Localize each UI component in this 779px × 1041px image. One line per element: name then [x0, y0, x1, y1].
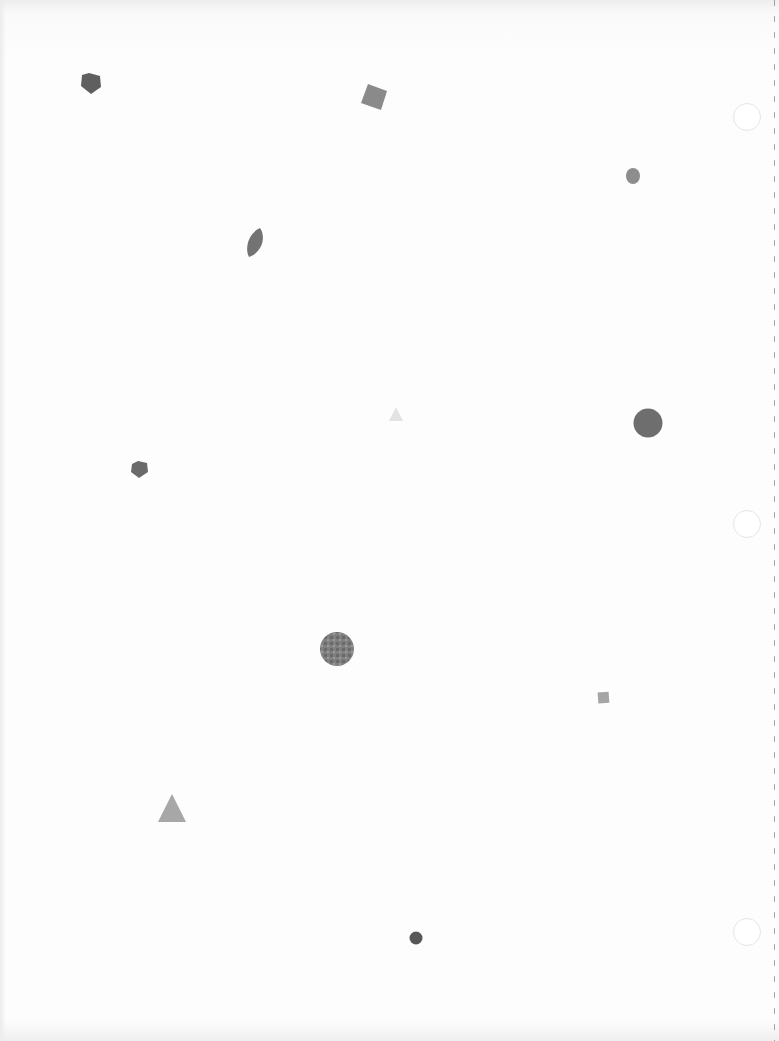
square-shape-small — [596, 690, 612, 706]
punch-hole-bottom — [733, 918, 761, 946]
square-shape — [358, 80, 392, 114]
triangle-shape — [156, 792, 188, 824]
perforation-edge-line — [774, 0, 775, 1041]
punch-hole-middle — [733, 510, 761, 538]
circle-shape-small — [624, 167, 642, 185]
punch-hole-top — [733, 103, 761, 131]
triangle-shape-faint — [387, 405, 405, 423]
scanned-page — [0, 0, 779, 1041]
circle-shape-large — [632, 407, 664, 439]
leaf-shape — [243, 226, 267, 260]
pentagon-shape — [78, 71, 104, 97]
circle-shape-dark — [408, 930, 424, 946]
pentagon-shape — [129, 459, 151, 481]
scan-shadow-left — [0, 0, 6, 1041]
textured-circle-shape — [318, 630, 356, 668]
